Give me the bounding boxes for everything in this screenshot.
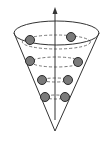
particle-ball [38,76,47,85]
particle-ball [67,33,76,42]
vertical-axis-arrow [53,7,58,120]
particle-ball [61,93,70,102]
arrow-up-icon [53,7,58,14]
particle-ball [64,76,73,85]
particle-ball [41,93,50,102]
cone-diagram-svg [0,0,110,141]
cone-diagram [0,0,110,141]
particle-ball [74,58,83,67]
particle-ball [26,36,35,45]
particles [26,33,83,102]
particle-ball [26,57,35,66]
